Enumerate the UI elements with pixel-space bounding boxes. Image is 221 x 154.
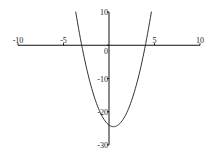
x-tick-label: -10 xyxy=(13,36,24,45)
x-ticks: -10-5510 xyxy=(13,36,204,45)
y-tick-label: -30 xyxy=(97,141,108,150)
y-tick-label: 0 xyxy=(104,47,108,56)
series-group xyxy=(76,12,152,127)
function-plot: -10-5510 100-10-20-30 xyxy=(0,0,221,154)
x-tick-label: -5 xyxy=(60,36,67,45)
y-tick-label: 10 xyxy=(100,8,108,17)
y-tick-label: -10 xyxy=(97,75,108,84)
x-tick-label: 5 xyxy=(153,36,157,45)
parabola-curve xyxy=(76,12,152,127)
y-ticks: 100-10-20-30 xyxy=(97,8,109,150)
x-tick-label: 10 xyxy=(196,36,204,45)
